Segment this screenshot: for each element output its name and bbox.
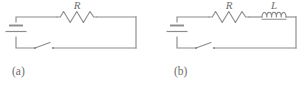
resistor-a <box>57 12 97 23</box>
circuit-diagram: R (a) <box>0 0 308 85</box>
switch-a[interactable] <box>34 43 54 50</box>
circuit-panel-a: R (a) <box>6 0 137 78</box>
inductor-coil-b <box>262 12 286 17</box>
switch-b[interactable] <box>195 43 215 50</box>
wire-top-left-a <box>16 17 57 22</box>
switch-lever-a <box>35 43 50 49</box>
switch-lever-b <box>196 43 211 49</box>
resistor-label-b: R <box>225 0 233 11</box>
switch-contact-a <box>52 47 54 49</box>
wire-bottom-left-a <box>16 37 35 48</box>
inductor-label-b: L <box>270 0 277 11</box>
panel-caption-a: (a) <box>12 65 25 78</box>
inductor-b <box>262 12 286 19</box>
circuit-panel-b: R L (b) <box>167 0 297 78</box>
resistor-b <box>209 12 249 23</box>
wire-top-left-b <box>177 17 209 22</box>
switch-contact-b <box>213 47 215 49</box>
panel-caption-b: (b) <box>174 65 188 78</box>
wire-bottom-left-b <box>177 37 196 48</box>
battery-b <box>167 26 188 32</box>
resistor-label-a: R <box>73 0 81 11</box>
figure-container: R (a) <box>0 0 308 85</box>
battery-a <box>6 26 27 32</box>
